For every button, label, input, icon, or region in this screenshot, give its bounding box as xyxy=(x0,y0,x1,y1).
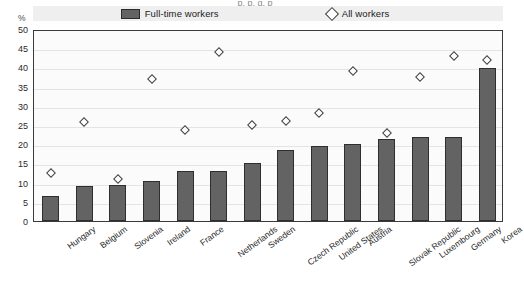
x-axis-tick xyxy=(51,221,52,222)
y-axis-tick-label: 10 xyxy=(4,179,28,189)
x-axis-tick xyxy=(84,221,85,222)
gridline xyxy=(34,165,502,166)
x-axis-label-hungary: Hungary xyxy=(65,224,97,251)
diamond-marker-germany xyxy=(449,51,459,61)
gridline xyxy=(34,127,502,128)
y-axis-tick-label: 5 xyxy=(4,198,28,208)
bar-netherlands xyxy=(210,171,227,221)
diamond-marker-slovak-republic xyxy=(382,128,392,138)
x-axis-tick xyxy=(420,221,421,222)
x-axis-tick xyxy=(152,221,153,222)
diamond-swatch-icon xyxy=(325,6,339,20)
bar-united-states xyxy=(311,146,328,221)
diamond-marker-czech-republic xyxy=(281,116,291,126)
bar-swatch-icon xyxy=(121,9,140,19)
y-axis-tick-label: 45 xyxy=(4,44,28,54)
y-axis-tick-label: 30 xyxy=(4,102,28,112)
bar-sweden xyxy=(244,163,261,221)
y-axis-tick xyxy=(33,69,34,70)
bar-slovak-republic xyxy=(378,139,395,221)
diamond-marker-netherlands xyxy=(214,47,224,57)
x-axis-tick xyxy=(454,221,455,222)
y-axis-tick-label: 0 xyxy=(4,217,28,227)
y-axis-tick-label: 35 xyxy=(4,83,28,93)
x-axis-tick xyxy=(353,221,354,222)
x-axis-tick xyxy=(387,221,388,222)
y-axis-tick xyxy=(33,204,34,205)
y-axis-tick-label: 40 xyxy=(4,63,28,73)
plot-area xyxy=(33,30,503,222)
bar-hungary xyxy=(42,196,59,221)
legend-item-all-workers: All workers xyxy=(327,8,390,19)
x-axis-labels: HungaryBelgiumSloveniaIrelandFranceNethe… xyxy=(33,224,503,284)
gridline xyxy=(34,185,502,186)
y-axis-tick-label: 20 xyxy=(4,140,28,150)
y-axis-tick xyxy=(33,31,34,32)
diamond-marker-belgium xyxy=(79,117,89,127)
bar-germany xyxy=(445,137,462,221)
diamond-marker-slovenia xyxy=(113,174,123,184)
gridline xyxy=(34,204,502,205)
y-axis-tick xyxy=(33,185,34,186)
bar-slovenia xyxy=(109,185,126,221)
legend-label-full-time-workers: Full-time workers xyxy=(145,8,219,19)
bar-belgium xyxy=(76,186,93,221)
diamond-marker-luxembourg xyxy=(415,72,425,82)
x-axis-tick xyxy=(319,221,320,222)
x-axis-label-ireland: Ireland xyxy=(165,224,192,248)
y-axis-tick xyxy=(33,127,34,128)
gridline xyxy=(34,69,502,70)
y-axis-tick-label: 15 xyxy=(4,159,28,169)
x-axis-label-korea: Korea xyxy=(500,224,524,246)
gridline xyxy=(34,89,502,90)
y-axis-tick xyxy=(33,165,34,166)
diamond-marker-austria xyxy=(348,66,358,76)
diamond-marker-united-states xyxy=(314,109,324,119)
x-axis-tick xyxy=(219,221,220,222)
chart-legend: Full-time workers All workers xyxy=(0,6,510,21)
bar-czech-republic xyxy=(277,150,294,221)
y-axis-tick-label: 25 xyxy=(4,121,28,131)
gridline xyxy=(34,146,502,147)
diamond-marker-ireland xyxy=(147,74,157,84)
y-axis-tick xyxy=(33,89,34,90)
diamond-marker-hungary xyxy=(46,168,56,178)
bar-korea xyxy=(479,68,496,221)
diamond-marker-sweden xyxy=(247,120,257,130)
diamond-marker-korea xyxy=(482,55,492,65)
bar-austria xyxy=(344,144,361,221)
x-axis-tick xyxy=(118,221,119,222)
legend-label-all-workers: All workers xyxy=(342,8,390,19)
x-axis-tick xyxy=(286,221,287,222)
y-axis-tick xyxy=(33,50,34,51)
y-axis-unit-label: % xyxy=(18,13,26,23)
x-axis-tick xyxy=(487,221,488,222)
y-axis-tick xyxy=(33,108,34,109)
bar-france xyxy=(177,171,194,221)
gridline xyxy=(34,50,502,51)
legend-item-full-time-workers: Full-time workers xyxy=(121,8,219,19)
x-axis-tick xyxy=(185,221,186,222)
bar-luxembourg xyxy=(412,137,429,221)
y-axis-tick xyxy=(33,146,34,147)
x-axis-tick xyxy=(252,221,253,222)
x-axis-label-belgium: Belgium xyxy=(98,224,129,250)
x-axis-label-france: France xyxy=(198,224,226,248)
x-axis-label-slovenia: Slovenia xyxy=(132,224,165,251)
gridline xyxy=(34,108,502,109)
y-axis-tick-label: 50 xyxy=(4,25,28,35)
bar-ireland xyxy=(143,181,160,221)
